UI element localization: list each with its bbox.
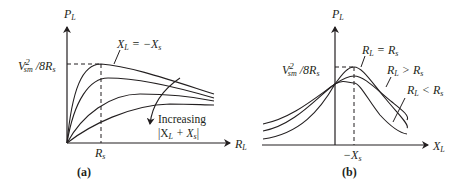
- increasing-note-line1: Increasing: [158, 114, 206, 126]
- panel-b-caption: (b): [342, 166, 357, 178]
- label-sub: L: [339, 13, 343, 22]
- label-sub: sm: [288, 69, 297, 78]
- label-sub: s: [395, 49, 398, 58]
- panel-a-curve-label: XL = −Xs: [117, 38, 161, 52]
- label-text: |: [197, 127, 199, 139]
- increasing-note-line2: |XL + Xs|: [158, 128, 199, 141]
- label-text: = −X: [129, 37, 159, 51]
- curve-label-rl-gt-rs: RL > Rs: [387, 64, 423, 78]
- label-text: /8R: [300, 63, 317, 77]
- label-sub: s: [158, 43, 161, 52]
- panel-b-max-label: V2sm /8Rs: [282, 62, 320, 78]
- caption-text: (b): [342, 165, 357, 179]
- panel-a-y-axis-label: PL: [64, 8, 76, 22]
- panel-a-leader: [114, 50, 120, 64]
- curve-label-rl-lt-rs: RL < Rs: [407, 84, 443, 98]
- label-text: Increasing: [158, 113, 206, 125]
- panel-a-x-tick-rs: Rs: [95, 147, 105, 161]
- label-text: |X: [158, 127, 169, 139]
- panel-b-axes: [262, 27, 428, 145]
- label-text: −X: [343, 148, 358, 162]
- label-text: > R: [399, 63, 420, 77]
- panel-b-x-axis-label: XL: [433, 140, 445, 154]
- caption-text: (a): [77, 165, 91, 179]
- panel-a-caption: (a): [77, 166, 91, 178]
- label-sub: s: [440, 89, 443, 98]
- label-sub: s: [102, 152, 105, 161]
- label-sub: s: [358, 154, 361, 163]
- panel-b-x-tick-neg-xs: −Xs: [343, 149, 362, 163]
- label-text: + X: [173, 127, 194, 139]
- label-sub: s: [52, 65, 55, 74]
- label-text: /8R: [36, 59, 53, 73]
- panel-b-y-axis-label: PL: [332, 8, 344, 22]
- label-text: = R: [374, 43, 395, 57]
- label-text: < R: [419, 83, 440, 97]
- panel-a-x-axis-label: RL: [235, 138, 247, 152]
- label-sub: sm: [24, 65, 33, 74]
- diagram-canvas: [0, 0, 466, 190]
- panel-a-max-label: V2sm /8Rs: [18, 58, 56, 74]
- label-sub: s: [420, 69, 423, 78]
- label-sub: L: [242, 143, 246, 152]
- label-sub: L: [440, 145, 444, 154]
- label-sub: L: [71, 13, 75, 22]
- label-sub: s: [316, 69, 319, 78]
- curve-label-rl-eq-rs: RL = Rs: [362, 44, 398, 58]
